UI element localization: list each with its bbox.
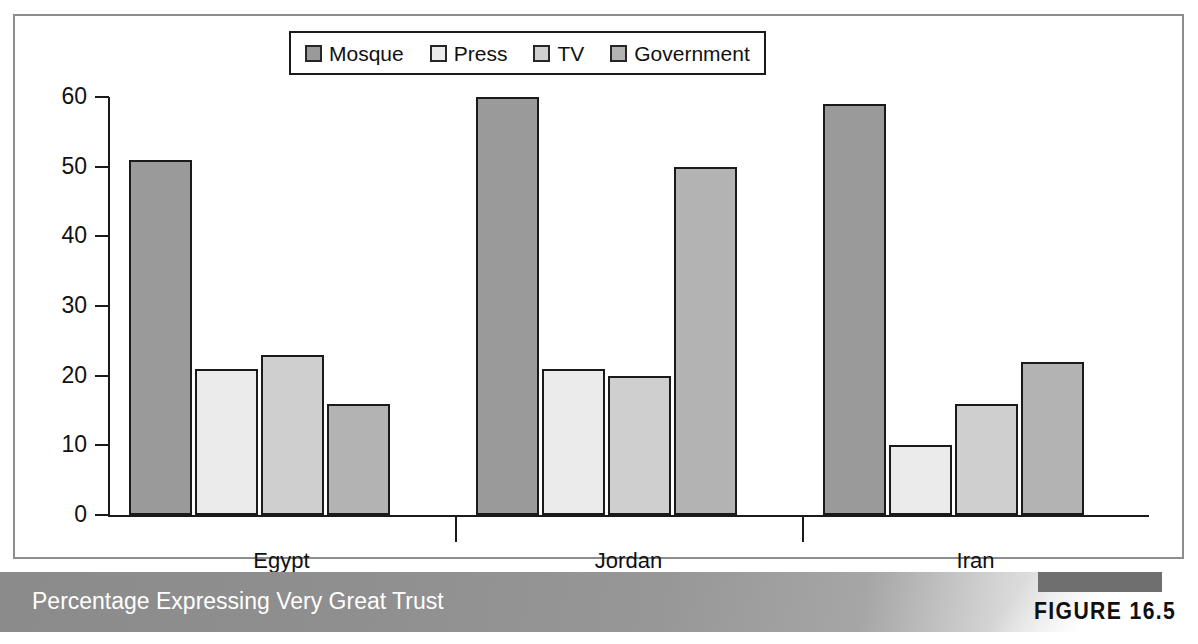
figure-number-label: FIGURE 16.5 xyxy=(1034,600,1176,623)
caption-bar: Percentage Expressing Very Great Trust xyxy=(0,572,1198,632)
y-tick-label: 60 xyxy=(27,85,87,108)
legend-item-mosque: Mosque xyxy=(305,43,404,64)
legend-label: Mosque xyxy=(329,43,404,64)
bar-jordan-mosque xyxy=(476,97,539,515)
bottom-strip xyxy=(0,632,1198,644)
plot-area: 0102030405060 EgyptJordanIran xyxy=(13,14,1184,559)
category-label-jordan: Jordan xyxy=(455,550,802,572)
bar-egypt-government xyxy=(327,404,390,515)
y-tick-mark xyxy=(95,166,109,168)
group-separator-tick xyxy=(802,517,804,542)
figure-tab-block xyxy=(1038,572,1162,592)
legend-item-tv: TV xyxy=(533,43,584,64)
legend-swatch-icon xyxy=(610,45,627,62)
bar-iran-press xyxy=(889,445,952,515)
legend-item-press: Press xyxy=(430,43,508,64)
legend-label: Press xyxy=(454,43,508,64)
y-tick-label: 10 xyxy=(27,433,87,456)
bar-egypt-press xyxy=(195,369,258,515)
bar-egypt-mosque xyxy=(129,160,192,515)
y-tick-mark xyxy=(95,375,109,377)
y-tick-mark xyxy=(95,305,109,307)
bar-egypt-tv xyxy=(261,355,324,515)
y-tick-label: 40 xyxy=(27,224,87,247)
y-tick-mark xyxy=(95,444,109,446)
x-axis-line xyxy=(108,515,1149,517)
bar-jordan-press xyxy=(542,369,605,515)
y-tick-mark xyxy=(95,96,109,98)
figure-container: MosquePressTVGovernment 0102030405060 Eg… xyxy=(0,0,1198,644)
category-label-iran: Iran xyxy=(802,550,1149,572)
y-tick-label: 0 xyxy=(27,503,87,526)
y-tick-mark xyxy=(95,235,109,237)
y-tick-mark xyxy=(95,514,109,516)
legend-swatch-icon xyxy=(305,45,322,62)
legend-item-government: Government xyxy=(610,43,750,64)
legend-label: Government xyxy=(634,43,750,64)
figure-caption: Percentage Expressing Very Great Trust xyxy=(32,588,444,616)
bar-iran-tv xyxy=(955,404,1018,515)
bar-jordan-government xyxy=(674,167,737,515)
legend-swatch-icon xyxy=(533,45,550,62)
legend-label: TV xyxy=(557,43,584,64)
legend-swatch-icon xyxy=(430,45,447,62)
y-tick-label: 20 xyxy=(27,364,87,387)
y-tick-label: 50 xyxy=(27,155,87,178)
y-axis-line xyxy=(108,97,110,517)
bar-iran-mosque xyxy=(823,104,886,515)
bar-iran-government xyxy=(1021,362,1084,515)
category-label-egypt: Egypt xyxy=(108,550,455,572)
chart-legend: MosquePressTVGovernment xyxy=(289,31,766,75)
group-separator-tick xyxy=(455,517,457,542)
bar-jordan-tv xyxy=(608,376,671,515)
y-tick-label: 30 xyxy=(27,294,87,317)
